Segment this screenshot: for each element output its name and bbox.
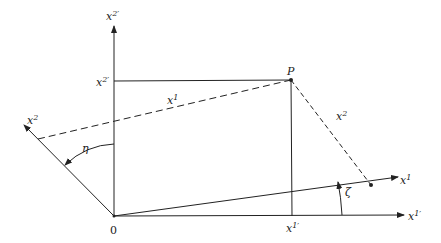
x2-component-label: x2 bbox=[336, 109, 347, 123]
x2-prime-tick-label: x2′ bbox=[96, 75, 109, 89]
p-vertical-projection bbox=[291, 80, 292, 216]
p-x1-component-dashed bbox=[38, 80, 291, 139]
x1-component-label: x1 bbox=[167, 93, 178, 107]
zeta-label: ζ bbox=[345, 186, 352, 199]
eta-label: η bbox=[82, 142, 89, 155]
x1-prime-axis-label: x1′ bbox=[408, 209, 421, 223]
x2-prime-axis-label: x2′ bbox=[106, 9, 119, 23]
p-x2-component-dashed bbox=[291, 80, 371, 185]
point-x1-foot bbox=[369, 183, 373, 187]
x1-axis bbox=[114, 177, 398, 216]
x2-axis-label: x2 bbox=[27, 113, 38, 127]
x1-prime-axis bbox=[114, 215, 404, 216]
p-horizontal-projection bbox=[114, 80, 291, 81]
origin-point bbox=[113, 215, 116, 218]
x1-prime-tick-label: x1′ bbox=[286, 221, 299, 235]
x1-axis-label: x1 bbox=[400, 173, 411, 187]
origin-label: 0 bbox=[110, 224, 117, 237]
eta-angle-arc bbox=[65, 144, 114, 165]
point-p-label: P bbox=[286, 65, 295, 78]
point-p bbox=[289, 78, 293, 82]
x2-axis bbox=[24, 125, 114, 216]
coordinate-diagram: x2′ x2′ P x1 x2 x1 x2 η ζ x1′ x1′ 0 bbox=[0, 0, 441, 243]
zeta-angle-arc bbox=[338, 182, 342, 215]
